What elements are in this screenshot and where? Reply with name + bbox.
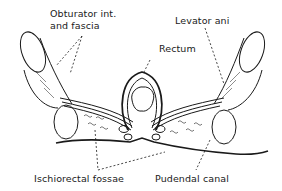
rectal-lumen: [132, 87, 154, 111]
right-ischial-tuberosity: [212, 110, 236, 144]
label-rectum: Rectum: [159, 43, 196, 54]
left-ischial-tuberosity: [54, 105, 78, 139]
label-ischiorectal-fossae: Ischiorectal fossae: [34, 173, 124, 184]
pelvic-diagram: Obturator int. and fascia Levator ani Re…: [0, 0, 282, 191]
label-pudendal-canal: Pudendal canal: [155, 173, 229, 184]
diagram-artwork: [0, 0, 282, 191]
label-levator-ani: Levator ani: [175, 15, 229, 26]
perineal-skin: [56, 138, 268, 154]
label-obturator-line1: Obturator int.: [50, 8, 116, 19]
label-obturator-line2: and fascia: [50, 20, 100, 31]
leader-lines: [56, 28, 224, 170]
right-upper-bone: [234, 29, 269, 76]
